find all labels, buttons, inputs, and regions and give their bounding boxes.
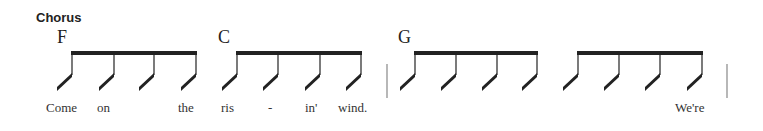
slash-notehead: [687, 73, 702, 91]
beam: [236, 51, 362, 55]
beam: [414, 51, 538, 55]
slash-notehead: [346, 73, 361, 91]
slash-notehead: [181, 73, 196, 91]
slash-notehead: [222, 73, 237, 91]
slash-notehead: [139, 73, 154, 91]
slash-notehead: [57, 73, 72, 91]
slash-notehead: [645, 73, 660, 91]
rhythm-notation: [0, 0, 763, 131]
lyric: ris: [221, 100, 234, 116]
slash-notehead: [99, 73, 114, 91]
lyric: the: [178, 100, 194, 116]
lyric: We're: [675, 100, 704, 116]
slash-notehead: [604, 73, 619, 91]
lyric: on: [97, 100, 110, 116]
beam: [577, 51, 703, 55]
slash-notehead: [522, 73, 537, 91]
beam: [71, 51, 197, 55]
lyric: wind.: [338, 100, 367, 116]
lyric: in': [305, 100, 317, 116]
slash-notehead: [305, 73, 320, 91]
slash-notehead: [482, 73, 497, 91]
slash-notehead: [400, 73, 415, 91]
slash-notehead: [441, 73, 456, 91]
slash-notehead: [263, 73, 278, 91]
lyric: Come: [46, 100, 77, 116]
slash-notes: [57, 51, 727, 98]
lyric: -: [268, 100, 272, 116]
slash-notehead: [563, 73, 578, 91]
